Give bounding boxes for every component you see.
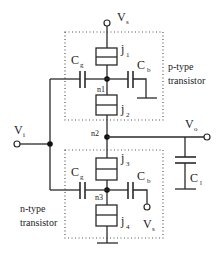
j1-label-sub: 1	[126, 51, 130, 59]
n-gate-cap-label: C	[71, 165, 79, 179]
svg-text:C: C	[190, 171, 198, 185]
svg-text:transistor: transistor	[20, 217, 58, 228]
supply-label: V	[117, 10, 126, 24]
svg-text:j: j	[120, 214, 124, 228]
svg-text:o: o	[194, 125, 198, 133]
svg-text:j: j	[120, 151, 124, 165]
output-label-sub: o	[194, 125, 198, 133]
svg-text:s: s	[126, 18, 129, 26]
svg-text:C: C	[71, 53, 79, 67]
svg-text:V: V	[117, 10, 126, 24]
input-node	[47, 141, 53, 147]
n-bias-supply-terminal	[144, 204, 150, 210]
svg-text:n-type: n-type	[20, 203, 46, 214]
p-type-caption-line1: p-type	[168, 61, 194, 72]
input-label-sub: i	[23, 131, 25, 139]
p-gate-cap-label: C	[71, 53, 79, 67]
svg-text:C: C	[137, 58, 145, 72]
svg-text:s: s	[152, 225, 155, 233]
n-type-caption-line2: transistor	[20, 217, 58, 228]
j2-label: j	[120, 102, 124, 116]
n1-label: n1	[97, 85, 105, 94]
n3-label: n3	[95, 193, 103, 202]
svg-text:V: V	[143, 217, 152, 231]
p-type-caption-line2: transistor	[168, 75, 206, 86]
svg-text:2: 2	[126, 111, 130, 119]
n-bias-supply-label: V	[143, 217, 152, 231]
svg-text:b: b	[147, 177, 151, 185]
svg-text:n3: n3	[95, 193, 103, 202]
svg-text:j: j	[120, 102, 124, 116]
j3-label: j	[120, 151, 124, 165]
svg-text:transistor: transistor	[168, 75, 206, 86]
n-gate-cap-sub: g	[80, 173, 84, 181]
load-cap-sub: l	[200, 179, 202, 187]
svg-text:3: 3	[126, 160, 130, 168]
svg-text:C: C	[137, 169, 145, 183]
svg-text:i: i	[23, 131, 25, 139]
svg-text:l: l	[200, 179, 202, 187]
svg-text:V: V	[14, 123, 23, 137]
j1-label: j	[120, 42, 124, 56]
svg-text:C: C	[71, 165, 79, 179]
load-cap-label: C	[190, 171, 198, 185]
input-label: V	[14, 123, 23, 137]
svg-text:n1: n1	[97, 85, 105, 94]
supply-terminal	[104, 20, 110, 26]
svg-text:g: g	[80, 173, 84, 181]
svg-text:4: 4	[126, 223, 130, 231]
svg-text:1: 1	[126, 51, 130, 59]
n-bias-cap-sub: b	[147, 177, 151, 185]
circuit-diagram: V s j 1 n1 C g C b p-type transistor j 2…	[0, 0, 223, 255]
n-bias-supply-sub: s	[152, 225, 155, 233]
svg-text:n2: n2	[91, 129, 99, 138]
j4-label: j	[120, 214, 124, 228]
n-type-caption-line1: n-type	[20, 203, 46, 214]
svg-text:V: V	[185, 117, 194, 131]
p-bias-cap-sub: b	[147, 66, 151, 74]
output-label: V	[185, 117, 194, 131]
svg-text:b: b	[147, 66, 151, 74]
input-terminal	[14, 141, 20, 147]
j4-label-sub: 4	[126, 223, 130, 231]
svg-text:p-type: p-type	[168, 61, 194, 72]
output-terminal	[204, 134, 210, 140]
p-gate-cap-sub: g	[80, 61, 84, 69]
supply-label-sub: s	[126, 18, 129, 26]
n2-label: n2	[91, 129, 99, 138]
p-bias-cap-label: C	[137, 58, 145, 72]
svg-text:j: j	[120, 42, 124, 56]
n-bias-cap-label: C	[137, 169, 145, 183]
svg-text:g: g	[80, 61, 84, 69]
j2-label-sub: 2	[126, 111, 130, 119]
j3-label-sub: 3	[126, 160, 130, 168]
